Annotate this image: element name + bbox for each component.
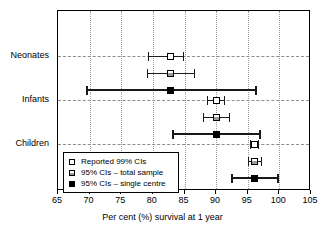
forest-plot-figure: NeonatesInfantsChildren 6570758085909510…	[0, 0, 325, 237]
ci-cap-upper	[183, 52, 184, 61]
estimate-marker	[213, 131, 220, 138]
estimate-marker	[251, 158, 258, 165]
x-axis-tick-label: 100	[271, 195, 286, 205]
legend-item[interactable]: 95% CIs – total sample	[69, 168, 173, 177]
legend-item[interactable]: Reported 99% CIs	[69, 157, 173, 166]
ci-cap-lower	[147, 69, 148, 78]
x-axis-tick-label: 90	[210, 195, 220, 205]
legend: Reported 99% CIs95% CIs – total sample95…	[63, 152, 179, 193]
estimate-marker	[167, 70, 174, 77]
estimate-marker	[251, 141, 258, 148]
gridline-category-infants	[58, 100, 309, 101]
ci-cap-upper	[261, 157, 262, 166]
x-axis-title: Per cent (%) survival at 1 year	[0, 212, 325, 223]
legend-item-label: 95% CIs – single centre	[81, 179, 166, 188]
x-axis-tick-label: 65	[52, 195, 62, 205]
ci-cap-upper	[277, 174, 279, 183]
category-label-infants: Infants	[22, 95, 49, 104]
x-axis-tick	[310, 190, 311, 194]
ci-cap-upper	[259, 130, 261, 139]
gridline-category-children	[58, 144, 309, 145]
ci-cap-lower	[86, 86, 88, 95]
ci-cap-lower	[248, 157, 249, 166]
ci-cap-upper	[229, 113, 230, 122]
x-axis-tick-label: 95	[242, 195, 252, 205]
ci-cap-lower	[203, 113, 204, 122]
ci-cap-upper	[194, 69, 195, 78]
x-axis-tick-label: 70	[84, 195, 94, 205]
legend-marker-filled-square-icon	[69, 181, 75, 187]
category-label-children: Children	[15, 139, 49, 148]
x-axis-tick-label: 105	[302, 195, 317, 205]
ci-cap-lower	[207, 96, 208, 105]
x-axis-tick	[57, 190, 58, 194]
estimate-marker	[213, 97, 220, 104]
x-axis-tick-label: 85	[178, 195, 188, 205]
x-axis-tick	[278, 190, 279, 194]
ci-cap-upper	[224, 96, 225, 105]
ci-cap-lower	[231, 174, 233, 183]
ci-cap-lower	[172, 130, 174, 139]
legend-marker-open-square-icon	[69, 159, 75, 165]
x-axis-tick	[247, 190, 248, 194]
legend-item[interactable]: 95% CIs – single centre	[69, 179, 173, 188]
confidence-interval-line	[148, 56, 183, 57]
legend-item-label: Reported 99% CIs	[81, 157, 146, 166]
x-axis-tick	[215, 190, 216, 194]
estimate-marker	[213, 114, 220, 121]
ci-cap-upper	[255, 86, 257, 95]
legend-item-label: 95% CIs – total sample	[81, 168, 163, 177]
x-axis-tick-label: 75	[115, 195, 125, 205]
x-axis-tick	[184, 190, 185, 194]
estimate-marker	[167, 87, 174, 94]
category-label-neonates: Neonates	[10, 51, 49, 60]
estimate-marker	[251, 175, 258, 182]
x-axis-tick-label: 80	[147, 195, 157, 205]
estimate-marker	[167, 53, 174, 60]
category-axis-labels: NeonatesInfantsChildren	[0, 10, 53, 190]
ci-cap-lower	[148, 52, 149, 61]
legend-marker-half-filled-square-icon	[69, 170, 75, 176]
